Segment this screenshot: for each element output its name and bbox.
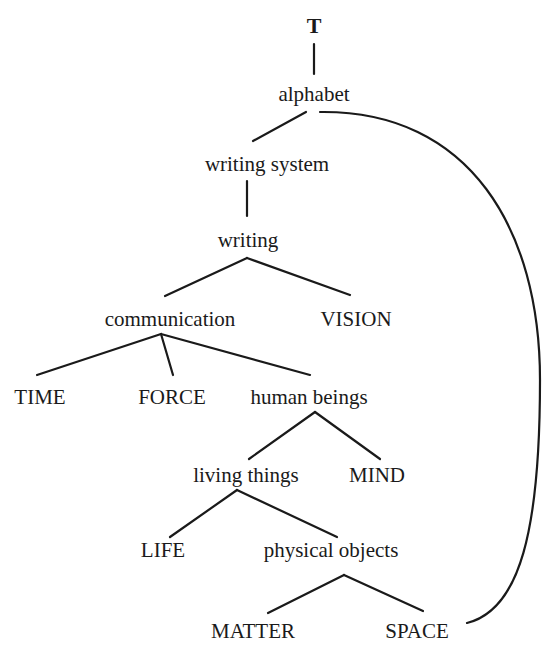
node-root-t: T [307, 14, 322, 38]
edge-writing-communication [165, 258, 247, 296]
node-mind: MIND [349, 463, 405, 487]
node-vision: VISION [320, 307, 391, 331]
edge-communication-time [37, 334, 161, 375]
edge-physical-objects-matter [268, 575, 344, 613]
edge-alphabet-writing-system [253, 112, 306, 141]
edge-human-beings-mind [315, 412, 380, 459]
node-matter: MATTER [211, 619, 295, 643]
edge-human-beings-living-things [249, 412, 315, 459]
node-human-beings: human beings [250, 385, 367, 409]
node-alphabet: alphabet [278, 82, 349, 106]
tree-diagram: T alphabet writing system writing commun… [0, 0, 553, 653]
edge-communication-human-beings [161, 334, 310, 375]
node-force: FORCE [138, 385, 206, 409]
node-time: TIME [14, 385, 65, 409]
node-writing: writing [218, 228, 279, 252]
edge-living-things-life [170, 490, 237, 537]
node-life: LIFE [141, 538, 185, 562]
node-writing-system: writing system [205, 152, 329, 176]
node-space: SPACE [385, 619, 448, 643]
node-living-things: living things [193, 463, 299, 487]
edge-living-things-physical-objects [237, 490, 337, 537]
edge-writing-vision [247, 258, 350, 295]
edge-communication-force [161, 334, 173, 375]
edge-physical-objects-space [344, 575, 423, 611]
node-communication: communication [105, 307, 236, 331]
node-physical-objects: physical objects [264, 538, 399, 562]
